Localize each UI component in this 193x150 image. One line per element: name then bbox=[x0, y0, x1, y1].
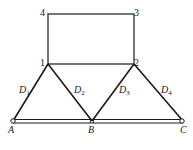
pin-joint-c bbox=[180, 119, 184, 123]
member-label-d2: D2 bbox=[73, 84, 85, 97]
member-d4 bbox=[134, 64, 183, 121]
truss-diagram: 4 3 1 2 A B C D1 D2 D3 D4 bbox=[0, 0, 193, 150]
member-d2 bbox=[48, 64, 92, 121]
pin-joint-a bbox=[11, 119, 15, 123]
member-label-d1: D1 bbox=[18, 84, 30, 97]
frame-rectangle bbox=[48, 14, 134, 64]
member-label-d3: D3 bbox=[118, 84, 130, 97]
support-label-b: B bbox=[88, 124, 94, 135]
member-label-d4: D4 bbox=[160, 84, 172, 97]
node-label-3: 3 bbox=[134, 7, 139, 18]
support-label-c: C bbox=[180, 124, 187, 135]
node-label-1: 1 bbox=[40, 57, 45, 68]
node-label-4: 4 bbox=[40, 7, 45, 18]
support-label-a: A bbox=[7, 124, 15, 135]
bottom-chord bbox=[13, 120, 183, 124]
node-label-2: 2 bbox=[134, 57, 139, 68]
